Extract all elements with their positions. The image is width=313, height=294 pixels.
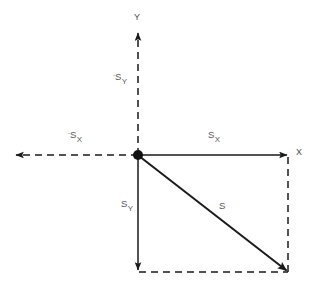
label-resultant-s: S — [219, 201, 225, 211]
x-axis-label: X — [296, 148, 302, 157]
label-negative-sx: -SX — [68, 130, 82, 144]
label-positive-sx: SX — [208, 130, 220, 144]
y-axis-label: Y — [134, 13, 140, 22]
vector-diagram-svg — [0, 0, 313, 294]
resultant-vector-line — [139, 156, 287, 271]
vector-diagram-canvas: Y X -SY -SX SX SY S — [0, 0, 313, 294]
label-positive-sy-subscript: Y — [127, 204, 133, 213]
label-negative-sy-subscript: Y — [121, 77, 127, 86]
label-resultant-s-base: S — [219, 200, 225, 211]
label-positive-sy: SY — [121, 199, 133, 213]
label-positive-sx-subscript: X — [214, 135, 220, 144]
label-negative-sy: -SY — [113, 72, 127, 86]
origin-point — [133, 150, 143, 160]
label-negative-sx-subscript: X — [76, 135, 82, 144]
